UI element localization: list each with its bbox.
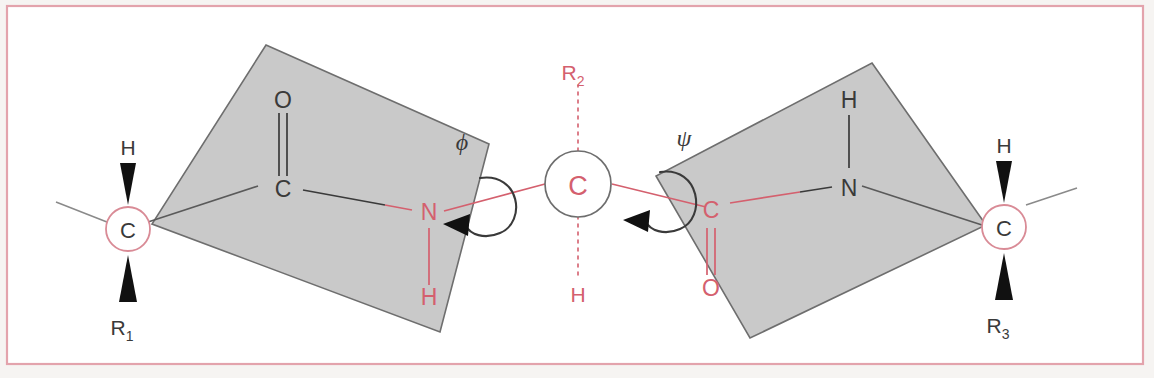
- right-amide-nitrogen-label: N: [841, 175, 858, 201]
- right-amide-hydrogen-label: H: [841, 87, 858, 113]
- phi-angle-label: ϕ: [456, 129, 468, 155]
- center-hydrogen-label: H: [570, 283, 585, 306]
- peptide-plane-diagram: C H R1 C O N H C R2 H C O N H C H: [0, 0, 1154, 378]
- left-carbonyl-oxygen-label: O: [274, 87, 292, 113]
- right-hydrogen-label: H: [996, 134, 1011, 157]
- psi-angle-label: ψ: [677, 125, 693, 151]
- left-alpha-carbon-label: C: [120, 218, 136, 243]
- diagram-canvas: C H R1 C O N H C R2 H C O N H C H: [0, 0, 1154, 378]
- left-hydrogen-label: H: [120, 136, 135, 159]
- right-carbonyl-oxygen-label: O: [702, 275, 720, 301]
- left-amide-hydrogen-label: H: [421, 284, 438, 310]
- central-alpha-carbon-label: C: [568, 171, 588, 201]
- left-carbonyl-carbon-label: C: [275, 176, 292, 202]
- left-amide-nitrogen-label: N: [421, 199, 438, 225]
- right-alpha-carbon-label: C: [996, 216, 1012, 241]
- right-carbonyl-carbon-label: C: [703, 197, 720, 223]
